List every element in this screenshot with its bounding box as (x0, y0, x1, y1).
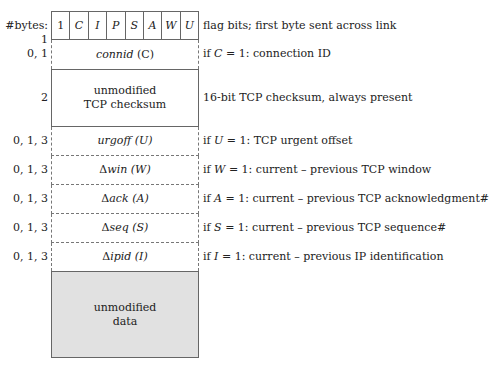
flag-bit-s: S (126, 12, 144, 39)
field-tcp-checksum: unmodified TCP checksum (51, 69, 199, 127)
flag-bit-1: 1 (52, 12, 70, 39)
flag-bit-a: A (144, 12, 162, 39)
field-name: connid (96, 48, 134, 61)
flag-bit-w: W (162, 12, 180, 39)
flag-bit-i: I (89, 12, 107, 39)
bytes-label-checksum: 2 (0, 91, 48, 105)
desc-ipid: if I = 1: current – previous IP identifi… (203, 250, 444, 264)
bytes-label-seq: 0, 1, 3 (0, 221, 48, 235)
bytes-label-ipid: 0, 1, 3 (0, 250, 48, 264)
flag-bit-p: P (107, 12, 125, 39)
checksum-line1: unmodified (94, 84, 157, 98)
field-delta-ipid: Δipid (I) (51, 243, 199, 271)
bytes-label-ack: 0, 1, 3 (0, 192, 48, 206)
field-delta-ack: Δack (A) (51, 185, 199, 214)
bytes-label-flags: #bytes: 1 (0, 19, 48, 47)
field-delta-win: Δwin (W) (51, 156, 199, 185)
desc-urgoff: if U = 1: TCP urgent offset (203, 134, 352, 148)
checksum-line2: TCP checksum (84, 98, 166, 112)
unmodified-data-block: unmodified data (51, 271, 199, 358)
flag-bit-u: U (181, 12, 198, 39)
bytes-label-connid: 0, 1 (0, 47, 48, 61)
desc-connid: if C = 1: connection ID (203, 47, 331, 61)
desc-seq: if S = 1: current – previous TCP sequenc… (203, 221, 446, 235)
bytes-label-win: 0, 1, 3 (0, 163, 48, 177)
field-connid: connid (C) (51, 40, 199, 69)
data-line2: data (113, 315, 138, 329)
flag-description: flag bits; first byte sent across link (203, 19, 396, 33)
flag-bit-c: C (70, 12, 88, 39)
bytes-label-urgoff: 0, 1, 3 (0, 134, 48, 148)
desc-win: if W = 1: current – previous TCP window (203, 163, 431, 177)
field-delta-seq: Δseq (S) (51, 214, 199, 243)
flag-bits-row: 1 C I P S A W U (51, 11, 199, 40)
desc-checksum: 16-bit TCP checksum, always present (203, 91, 412, 105)
field-urgoff: urgoff (U) (51, 127, 199, 156)
field-flag: (C) (134, 48, 155, 61)
desc-ack: if A = 1: current – previous TCP acknowl… (203, 192, 489, 206)
data-line1: unmodified (94, 301, 157, 315)
